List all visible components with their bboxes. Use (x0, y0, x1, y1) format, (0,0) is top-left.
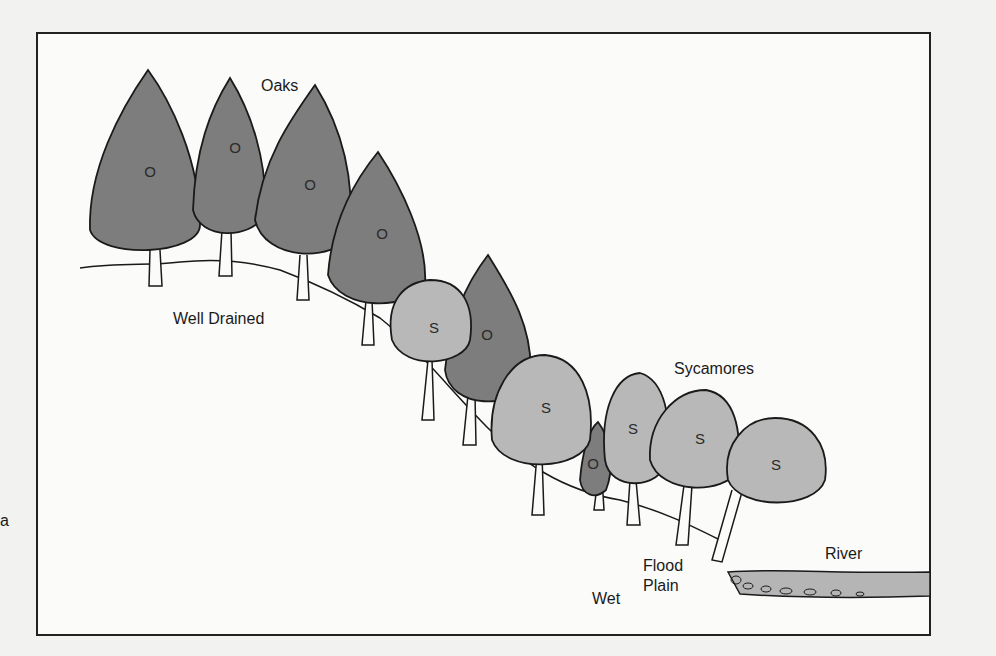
tree-marker: S (695, 430, 705, 447)
tree-marker: O (229, 139, 241, 156)
label-sycamores: Sycamores (674, 360, 754, 378)
tree-marker: S (429, 319, 439, 336)
tree-marker: O (481, 326, 493, 343)
tree-marker: S (541, 399, 551, 416)
tree-marker: S (771, 456, 781, 473)
tree-marker: O (376, 225, 388, 242)
label-flood-plain-1: Flood (643, 557, 683, 575)
tree-marker: O (144, 163, 156, 180)
label-well-drained: Well Drained (173, 310, 264, 328)
oak-tree-1 (90, 70, 200, 250)
river-icon (728, 571, 930, 598)
label-oaks: Oaks (261, 77, 298, 95)
label-flood-plain-2: Plain (643, 577, 679, 595)
label-river: River (825, 545, 862, 563)
tree-marker: O (304, 176, 316, 193)
tree-marker: S (628, 420, 638, 437)
label-wet: Wet (592, 590, 620, 608)
tree-marker: O (587, 455, 599, 472)
